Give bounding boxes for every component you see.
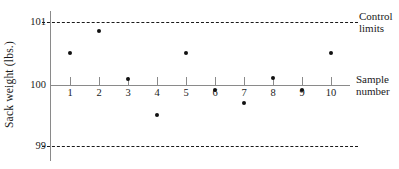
x-tick-mark-7 — [244, 77, 245, 85]
x-tick-label-10: 10 — [320, 87, 342, 99]
data-point-4 — [155, 113, 159, 117]
y-tick-100: 100 — [22, 80, 46, 90]
annotation-control-limits: Control limits — [359, 11, 393, 34]
annotation-control-limits-line2: limits — [359, 23, 393, 35]
x-tick-mark-6 — [215, 77, 216, 85]
data-point-1 — [68, 51, 72, 55]
x-tick-mark-4 — [157, 77, 158, 85]
x-tick-label-4: 4 — [146, 87, 168, 99]
x-tick-mark-2 — [99, 77, 100, 85]
y-axis-title: Sack weight (lbs.) — [0, 0, 18, 169]
x-tick-label-3: 3 — [117, 87, 139, 99]
x-tick-mark-10 — [331, 77, 332, 85]
x-tick-mark-5 — [186, 77, 187, 85]
y-tick-99: 99 — [22, 141, 46, 151]
data-point-3 — [126, 77, 130, 81]
data-point-5 — [184, 51, 188, 55]
data-point-2 — [97, 29, 101, 33]
annotation-sample-number-line1: Sample — [356, 74, 390, 86]
lower-control-limit-line — [42, 146, 358, 147]
center-line-100 — [50, 85, 350, 86]
y-tick-label-99: 99 — [22, 141, 46, 151]
y-tick-label-101: 101 — [22, 17, 46, 27]
y-axis-line — [50, 11, 51, 161]
x-tick-label-1: 1 — [59, 87, 81, 99]
x-tick-mark-1 — [70, 77, 71, 85]
control-chart: Sack weight (lbs.) 101 100 99 1 2 3 4 5 … — [0, 0, 399, 169]
annotation-control-limits-line1: Control — [359, 11, 393, 23]
annotation-sample-number: Sample number — [356, 74, 390, 97]
data-point-7 — [242, 101, 246, 105]
upper-control-limit-line — [42, 22, 358, 23]
data-point-8 — [271, 76, 275, 80]
x-tick-label-5: 5 — [175, 87, 197, 99]
annotation-sample-number-line2: number — [356, 86, 390, 98]
y-tick-label-100: 100 — [22, 80, 46, 90]
x-tick-mark-9 — [302, 77, 303, 85]
y-tick-101: 101 — [22, 17, 46, 27]
x-tick-label-8: 8 — [262, 87, 284, 99]
data-point-10 — [329, 51, 333, 55]
x-tick-label-2: 2 — [88, 87, 110, 99]
x-tick-label-7: 7 — [233, 87, 255, 99]
